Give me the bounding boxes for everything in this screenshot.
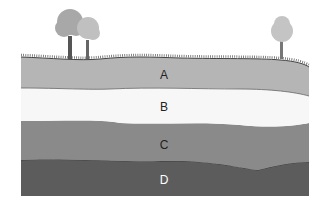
layer-label-d: D — [160, 173, 169, 187]
layer-label-c: C — [160, 138, 169, 152]
layer-label-a: A — [160, 68, 168, 82]
tree-icon — [271, 16, 293, 59]
tree-icon — [77, 17, 100, 59]
layer-label-b: B — [160, 100, 168, 114]
